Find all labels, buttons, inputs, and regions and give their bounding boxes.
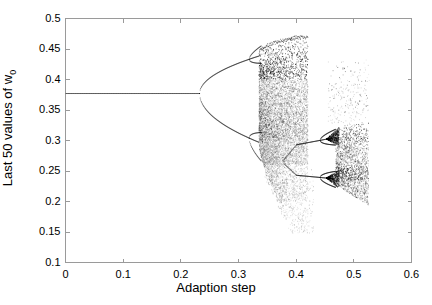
y-tick-label: 0.45 bbox=[0, 42, 61, 54]
bifurcation-diagram-figure: Adaption step Last 50 values of w0 00.10… bbox=[0, 0, 432, 305]
x-axis-label: Adaption step bbox=[0, 280, 432, 295]
axis-box bbox=[66, 19, 412, 263]
y-tick-label: 0.3 bbox=[0, 134, 61, 146]
y-tick-label: 0.1 bbox=[0, 256, 61, 268]
x-tick-label: 0.6 bbox=[362, 268, 432, 280]
y-tick-label: 0.4 bbox=[0, 73, 61, 85]
y-tick-label: 0.35 bbox=[0, 103, 61, 115]
y-tick-label: 0.5 bbox=[0, 12, 61, 24]
bifurcation-plot-canvas bbox=[0, 0, 432, 305]
y-tick-label: 0.25 bbox=[0, 164, 61, 176]
bifurcation-data-points bbox=[66, 36, 370, 233]
axis-ticks bbox=[66, 19, 412, 263]
y-tick-label: 0.2 bbox=[0, 195, 61, 207]
y-tick-label: 0.15 bbox=[0, 225, 61, 237]
